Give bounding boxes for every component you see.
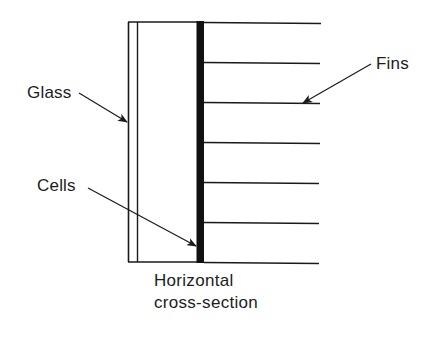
caption: Horizontal cross-section [154, 270, 258, 314]
fins-label: Fins [376, 55, 409, 72]
cells-arrow [88, 188, 196, 246]
glass-arrow [79, 93, 127, 122]
cells-bar [197, 21, 205, 263]
cells-label: Cells [37, 177, 76, 194]
glass-layer [129, 22, 138, 262]
enclosure-edges [128, 22, 200, 262]
caption-line-2: cross-section [154, 292, 258, 314]
caption-line-1: Horizontal [154, 270, 258, 292]
fins-arrow [303, 64, 371, 103]
glass-label: Glass [27, 84, 71, 101]
fins [204, 23, 321, 264]
